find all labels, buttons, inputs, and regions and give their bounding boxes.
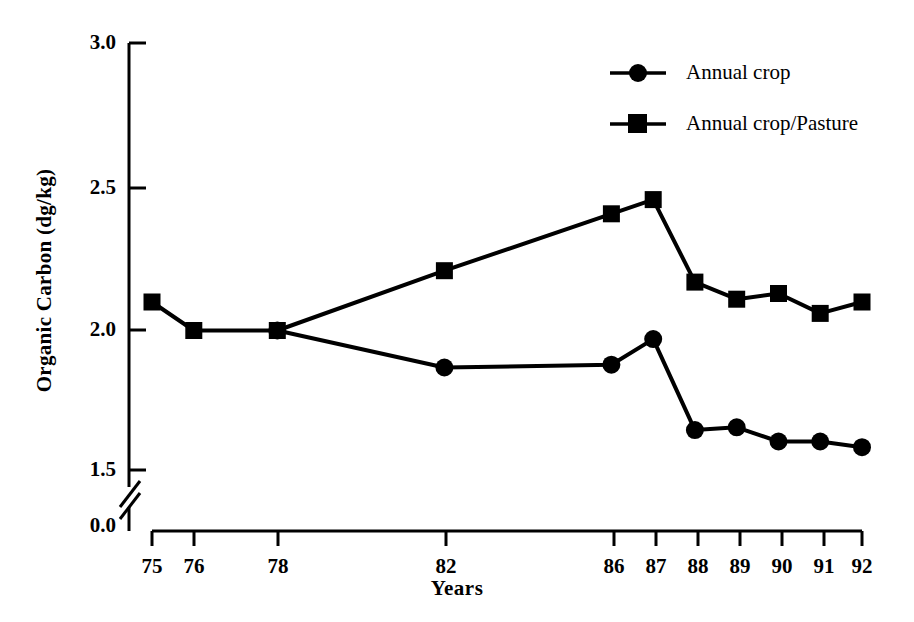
data-point-annual-crop-pasture — [812, 305, 829, 322]
data-point-annual-crop — [811, 433, 829, 451]
y-axis-ticks — [129, 188, 146, 470]
data-point-annual-crop — [853, 438, 871, 456]
data-point-annual-crop-pasture — [144, 294, 161, 311]
data-point-annual-crop — [686, 421, 704, 439]
data-point-annual-crop-pasture — [645, 191, 662, 208]
y-tick-label-0-0: 0.0 — [48, 515, 116, 536]
data-point-annual-crop-pasture — [770, 285, 787, 302]
data-point-annual-crop-pasture — [686, 274, 703, 291]
x-tick-label-78: 78 — [258, 556, 298, 577]
series-line-annual-crop-pasture — [152, 200, 862, 331]
legend-label-annual-crop-pasture: Annual crop/Pasture — [686, 113, 858, 134]
legend-marker-circle-icon — [629, 64, 647, 82]
legend-glyphs — [610, 64, 666, 133]
data-point-annual-crop-pasture — [728, 291, 745, 308]
series-line-annual-crop — [277, 331, 862, 448]
y-tick-label-2-5: 2.5 — [48, 177, 116, 198]
y-tick-label-1-5: 1.5 — [48, 459, 116, 480]
x-tick-label-89: 89 — [720, 556, 760, 577]
data-point-annual-crop-pasture — [603, 205, 620, 222]
y-axis-title: Organic Carbon (dg/kg) — [32, 131, 57, 431]
data-point-annual-crop — [644, 330, 662, 348]
x-tick-label-90: 90 — [762, 556, 802, 577]
data-point-annual-crop-pasture — [436, 262, 453, 279]
chart-figure: 3.0 2.5 2.0 1.5 0.0 75 76 78 82 86 87 88… — [0, 0, 914, 622]
x-tick-label-91: 91 — [804, 556, 844, 577]
series-markers-annual-crop — [268, 322, 871, 457]
x-tick-label-87: 87 — [636, 556, 676, 577]
data-point-annual-crop-pasture — [185, 322, 202, 339]
y-tick-label-2-0: 2.0 — [48, 319, 116, 340]
x-tick-label-86: 86 — [594, 556, 634, 577]
x-axis-title: Years — [0, 576, 914, 601]
data-point-annual-crop — [602, 356, 620, 374]
data-point-annual-crop — [728, 418, 746, 436]
data-point-annual-crop — [770, 433, 788, 451]
chart-plot-area — [0, 0, 914, 622]
data-point-annual-crop-pasture — [854, 294, 871, 311]
series-markers-annual-crop-pasture — [144, 191, 871, 339]
legend-label-annual-crop: Annual crop — [686, 62, 790, 83]
data-point-annual-crop — [435, 359, 453, 377]
x-tick-label-82: 82 — [426, 556, 466, 577]
legend-marker-square-icon — [628, 114, 647, 133]
x-tick-label-88: 88 — [678, 556, 718, 577]
x-tick-label-92: 92 — [842, 556, 882, 577]
x-tick-label-76: 76 — [174, 556, 214, 577]
x-tick-label-75: 75 — [132, 556, 172, 577]
data-point-annual-crop — [268, 322, 286, 340]
y-tick-label-3-0: 3.0 — [48, 32, 116, 53]
x-axis-ticks — [152, 531, 862, 546]
